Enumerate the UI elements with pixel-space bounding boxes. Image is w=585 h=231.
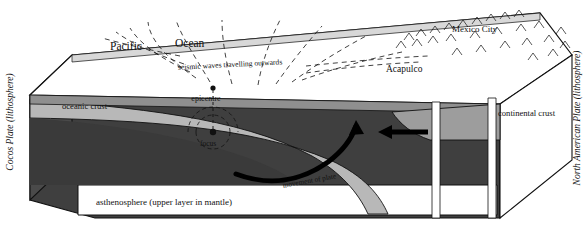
label-mexico-city: Mexico City	[452, 24, 498, 34]
focus-dot	[210, 129, 216, 135]
trench-separator-left	[432, 102, 440, 218]
label-asthenosphere: asthenosphere (upper layer in mantle)	[96, 197, 232, 207]
subduction-block-diagram: Pacific Ocean seismic waves travelling o…	[0, 0, 585, 231]
epicentre-dot	[210, 85, 215, 90]
label-epicentre: epicentre	[191, 94, 221, 103]
label-continental-crust: continental crust	[498, 108, 556, 118]
label-oceanic-crust: oceanic crust	[62, 101, 108, 111]
label-pacific: Pacific	[110, 40, 142, 52]
label-cocos-plate: Cocos Plate (lithosphere)	[5, 73, 16, 170]
label-acapulco: Acapulco	[386, 64, 423, 74]
label-ocean: Ocean	[175, 37, 205, 49]
diagram-canvas: Pacific Ocean seismic waves travelling o…	[0, 0, 585, 231]
label-north-american-plate: North American Plate (lithosphere)	[572, 51, 583, 187]
trench-separator-right	[488, 98, 496, 218]
label-focus: focus	[200, 139, 216, 148]
